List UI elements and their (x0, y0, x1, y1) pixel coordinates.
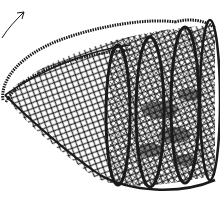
arrow-mark (2, 12, 24, 38)
fish-trap-drawing (0, 0, 220, 205)
net-mesh (0, 0, 220, 205)
drawing-svg (0, 0, 220, 205)
